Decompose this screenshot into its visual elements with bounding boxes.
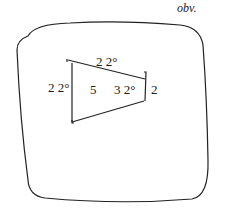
tablet-diagram: obv. 2 2° 2 2° 5 3 2° 2 xyxy=(0,0,227,211)
top-edge-label: 2 2° xyxy=(96,54,117,69)
area-label: 5 xyxy=(90,82,97,97)
center-right-label: 3 2° xyxy=(114,82,135,97)
left-edge-label: 2 2° xyxy=(48,80,69,95)
tablet-outline xyxy=(17,22,208,202)
right-edge-label: 2 xyxy=(151,82,158,97)
obverse-label: obv. xyxy=(177,1,196,15)
